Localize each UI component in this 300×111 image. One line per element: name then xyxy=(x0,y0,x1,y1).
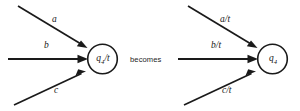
edge-b-t-label: b/t xyxy=(211,41,221,51)
transformation-figure: a b c q4/t becomes a/t b/t c/t q4 xyxy=(0,0,300,111)
edge-c-label: c xyxy=(54,86,58,96)
becomes-connector: becomes xyxy=(130,55,162,64)
edge-b-arrowhead xyxy=(78,55,89,64)
edge-c-t-label: c/t xyxy=(222,86,232,96)
edge-c-line xyxy=(14,74,82,106)
left-node-label: q4/t xyxy=(89,54,117,65)
edge-a-label: a xyxy=(52,15,57,25)
edge-b-t-arrowhead xyxy=(248,55,259,64)
left-node-label-suffix: /t xyxy=(104,53,109,63)
right-node-label-sub: 4 xyxy=(274,58,277,65)
edge-c-t-line xyxy=(184,74,252,106)
right-node-label: q4 xyxy=(259,54,287,65)
edge-a-line xyxy=(18,6,84,46)
edge-b-label: b xyxy=(44,41,49,51)
edge-a-t-label: a/t xyxy=(220,15,230,25)
